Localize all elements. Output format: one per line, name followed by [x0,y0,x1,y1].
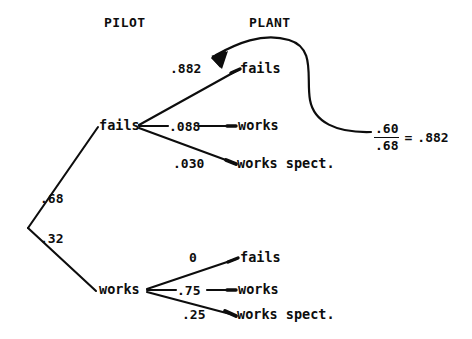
arrow-tip-fails-to-works-spect [226,160,236,164]
header-plant: PLANT [249,16,291,29]
prob-works-to-fails: 0 [189,251,197,264]
arrow-tip-works-to-works-spect [225,311,236,316]
arrow-tip-fails-to-fails [231,69,240,73]
tree-edges-layer [0,0,472,339]
equals-sign: = [404,131,412,144]
fraction-numerator: .60 [374,122,399,138]
annotation-result: .882 [417,131,448,144]
leaf-upper-works-spect: works spect. [237,157,335,171]
edge-fails-to-fails [139,70,238,125]
prob-works-to-works-spect: .25 [182,308,205,321]
arrow-tip-works-to-fails [228,258,238,262]
prob-root-to-works: .32 [40,232,63,245]
fraction-denominator: .68 [374,138,399,153]
annotation-fraction: .60 .68 = .882 [374,122,449,152]
prob-fails-to-works: .088 [169,120,200,133]
leaf-lower-fails: fails [240,251,281,265]
probability-tree-diagram: PILOT PLANT fails works fails works work… [0,0,472,339]
leaf-lower-works-spect: works spect. [237,308,335,322]
leaf-upper-works: works [238,119,279,133]
leaf-upper-fails: fails [240,62,281,76]
prob-fails-to-works-spect: .030 [173,157,204,170]
node-pilot-works: works [99,283,140,297]
node-pilot-fails: fails [99,119,140,133]
header-pilot: PILOT [104,16,146,29]
prob-fails-to-fails: .882 [170,62,201,75]
prob-works-to-works: .75 [177,284,200,297]
edge-root-to-pilot-fails [28,127,98,228]
fraction-stack: .60 .68 [374,122,399,152]
prob-root-to-fails: .68 [40,192,63,205]
leaf-lower-works: works [238,283,279,297]
